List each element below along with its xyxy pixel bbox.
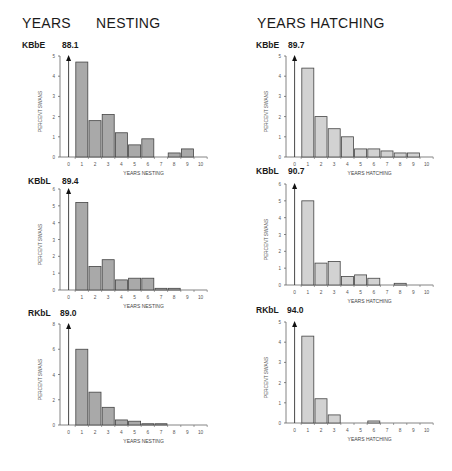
- svg-text:6: 6: [372, 290, 375, 295]
- svg-text:6: 6: [278, 182, 281, 187]
- zero-value-label-kbbe-nesting: 88.1: [62, 40, 79, 50]
- svg-text:YEARS NESTING: YEARS NESTING: [123, 438, 164, 444]
- svg-text:6: 6: [52, 187, 55, 192]
- svg-text:2: 2: [94, 295, 97, 300]
- svg-text:6: 6: [52, 347, 55, 352]
- svg-text:5: 5: [359, 290, 362, 295]
- svg-text:2: 2: [278, 249, 281, 254]
- svg-text:3: 3: [333, 162, 336, 167]
- panel-label-kbbe-nesting: KBbE: [22, 40, 45, 50]
- svg-text:4: 4: [278, 216, 281, 221]
- svg-text:5: 5: [278, 199, 281, 204]
- svg-text:1: 1: [80, 430, 83, 435]
- chart-rkbl-hatching: 012345012345678910YEARS HATCHINGPERCENT …: [246, 318, 446, 444]
- svg-text:3: 3: [278, 360, 281, 365]
- svg-text:0: 0: [52, 288, 55, 293]
- svg-text:1: 1: [52, 135, 55, 140]
- svg-text:0: 0: [67, 430, 70, 435]
- svg-text:10: 10: [424, 290, 430, 295]
- zero-value-label-kbbl-hatching: 90.7: [288, 166, 305, 176]
- svg-text:PERCENT SWANS: PERCENT SWANS: [38, 359, 43, 401]
- chart-kbbl-nesting: 0123456012345678910YEARS NESTINGPERCENT …: [20, 185, 220, 311]
- svg-text:0: 0: [293, 428, 296, 433]
- svg-text:9: 9: [412, 428, 415, 433]
- svg-text:1: 1: [306, 162, 309, 167]
- svg-text:3: 3: [278, 94, 281, 99]
- svg-text:8: 8: [173, 295, 176, 300]
- svg-text:YEARS HATCHING: YEARS HATCHING: [348, 436, 392, 442]
- svg-text:5: 5: [133, 162, 136, 167]
- svg-text:1: 1: [278, 135, 281, 140]
- svg-text:4: 4: [52, 221, 55, 226]
- svg-text:3: 3: [333, 290, 336, 295]
- svg-text:9: 9: [412, 162, 415, 167]
- svg-text:6: 6: [146, 162, 149, 167]
- svg-text:8: 8: [399, 162, 402, 167]
- svg-text:3: 3: [52, 94, 55, 99]
- svg-text:3: 3: [107, 295, 110, 300]
- svg-text:PERCENT SWANS: PERCENT SWANS: [38, 224, 43, 266]
- svg-text:0: 0: [52, 423, 55, 428]
- svg-text:YEARS HATCHING: YEARS HATCHING: [348, 170, 392, 176]
- svg-text:9: 9: [186, 162, 189, 167]
- svg-text:3: 3: [107, 162, 110, 167]
- svg-text:4: 4: [52, 373, 55, 378]
- svg-text:2: 2: [94, 162, 97, 167]
- svg-text:2: 2: [320, 290, 323, 295]
- svg-text:5: 5: [278, 54, 281, 59]
- svg-text:PERCENT SWANS: PERCENT SWANS: [38, 91, 43, 133]
- svg-text:7: 7: [160, 430, 163, 435]
- svg-text:8: 8: [399, 290, 402, 295]
- panel-label-rkbl-hatching: RKbL: [256, 305, 279, 315]
- panel-label-kbbe-hatching: KBbE: [256, 40, 279, 50]
- nesting-column-title: YEARS NESTING: [22, 15, 160, 31]
- svg-text:4: 4: [52, 74, 55, 79]
- zero-value-label-kbbe-hatching: 89.7: [288, 40, 305, 50]
- svg-text:0: 0: [52, 155, 55, 160]
- svg-text:1: 1: [80, 295, 83, 300]
- svg-text:0: 0: [278, 421, 281, 426]
- svg-text:4: 4: [120, 430, 123, 435]
- panel-label-kbbl-hatching: KBbL: [256, 166, 279, 176]
- svg-text:5: 5: [278, 320, 281, 325]
- svg-text:3: 3: [107, 430, 110, 435]
- svg-text:1: 1: [306, 428, 309, 433]
- svg-text:1: 1: [80, 162, 83, 167]
- svg-text:3: 3: [333, 428, 336, 433]
- svg-text:7: 7: [386, 162, 389, 167]
- chart-kbbe-nesting: 012345012345678910YEARS NESTINGPERCENT S…: [20, 52, 220, 178]
- svg-text:1: 1: [306, 290, 309, 295]
- svg-text:6: 6: [372, 428, 375, 433]
- svg-text:2: 2: [52, 115, 55, 120]
- svg-text:1: 1: [52, 271, 55, 276]
- hatching-column-title: YEARS HATCHING: [257, 15, 385, 31]
- svg-text:3: 3: [52, 238, 55, 243]
- svg-text:10: 10: [424, 162, 430, 167]
- svg-text:0: 0: [278, 283, 281, 288]
- svg-text:9: 9: [186, 295, 189, 300]
- svg-text:5: 5: [359, 162, 362, 167]
- svg-text:9: 9: [412, 290, 415, 295]
- svg-text:2: 2: [52, 398, 55, 403]
- zero-value-label-rkbl-nesting: 89.0: [60, 308, 77, 318]
- svg-text:10: 10: [198, 430, 204, 435]
- svg-text:2: 2: [278, 381, 281, 386]
- svg-text:0: 0: [293, 290, 296, 295]
- svg-text:4: 4: [120, 295, 123, 300]
- svg-text:YEARS NESTING: YEARS NESTING: [123, 303, 164, 309]
- svg-text:8: 8: [173, 162, 176, 167]
- svg-text:0: 0: [67, 162, 70, 167]
- svg-text:6: 6: [146, 430, 149, 435]
- svg-text:10: 10: [198, 162, 204, 167]
- svg-text:10: 10: [424, 428, 430, 433]
- svg-text:PERCENT SWANS: PERCENT SWANS: [264, 357, 269, 399]
- svg-text:5: 5: [133, 295, 136, 300]
- svg-text:2: 2: [320, 428, 323, 433]
- svg-text:8: 8: [52, 322, 55, 327]
- svg-text:6: 6: [146, 295, 149, 300]
- svg-text:4: 4: [346, 290, 349, 295]
- svg-text:0: 0: [67, 295, 70, 300]
- svg-text:7: 7: [386, 428, 389, 433]
- svg-text:5: 5: [52, 54, 55, 59]
- svg-text:6: 6: [372, 162, 375, 167]
